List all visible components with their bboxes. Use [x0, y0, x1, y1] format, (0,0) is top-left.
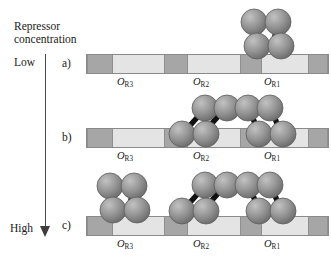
operator-label-or2-b: OR2 [193, 150, 209, 161]
operator-label-or1-b: OR1 [264, 150, 280, 161]
dna-spacer-segment [87, 129, 113, 147]
dna-operator-or3 [113, 129, 165, 147]
dna-spacer-segment [164, 55, 188, 73]
repressor-dimer-or1-b [232, 95, 302, 151]
dna-spacer-segment [308, 129, 328, 147]
operator-label-or3-c: OR3 [117, 238, 133, 249]
axis-low-label: Low [14, 56, 35, 68]
operator-label-or1-c: OR1 [264, 238, 280, 249]
row-label-b: b) [62, 131, 72, 143]
repressor-dimer-or2-b [165, 95, 235, 151]
operator-label-or1-a: OR1 [264, 76, 280, 87]
dna-spacer-segment [308, 217, 328, 235]
row-label-a: a) [62, 57, 71, 69]
repressor-dimer-or1-a [237, 8, 297, 60]
operator-label-or3-a: OR3 [117, 76, 133, 87]
dna-spacer-segment [87, 55, 113, 73]
concentration-axis-arrowhead [40, 226, 50, 237]
repressor-dimer-or3-c [93, 172, 153, 224]
axis-high-label: High [10, 222, 33, 234]
repressor-dimer-or2-c [165, 172, 235, 228]
axis-title: Repressor concentration [14, 20, 77, 46]
row-label-c: c) [62, 219, 71, 231]
operator-label-or3-b: OR3 [117, 150, 133, 161]
operator-label-or2-c: OR2 [193, 238, 209, 249]
dna-spacer-segment [308, 55, 328, 73]
concentration-axis-line [45, 54, 46, 230]
repressor-dimer-or1-c [232, 172, 302, 228]
dna-operator-or2 [188, 55, 240, 73]
operator-label-or2-a: OR2 [193, 76, 209, 87]
dna-operator-or3 [113, 55, 165, 73]
